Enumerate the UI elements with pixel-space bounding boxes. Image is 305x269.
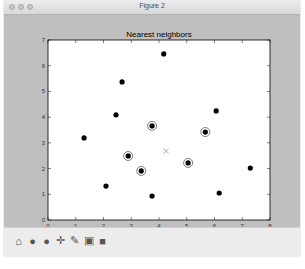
data-point	[126, 153, 131, 158]
data-point	[214, 108, 219, 113]
data-point	[103, 183, 108, 188]
figure-window: Figure 2 Nearest neighbors01234567801234…	[4, 0, 300, 256]
chart-title: Nearest neighbors	[126, 30, 191, 39]
pan-icon: ✛	[56, 234, 65, 247]
home-icon: ⌂	[15, 235, 22, 247]
subplots-button[interactable]: ▣	[82, 234, 95, 247]
data-point	[161, 51, 166, 56]
title-bar[interactable]: Figure 2	[4, 0, 300, 15]
data-point	[119, 79, 124, 84]
y-tick-label: 5	[42, 88, 46, 94]
y-tick-label: 4	[42, 114, 46, 120]
data-point	[81, 135, 86, 140]
figure-canvas[interactable]: Nearest neighbors01234567801234567	[4, 15, 300, 227]
data-point	[113, 112, 118, 117]
navigation-toolbar: ⌂●●✛✎▣■	[4, 227, 300, 256]
forward-icon: ●	[43, 235, 50, 247]
data-point	[203, 129, 208, 134]
y-tick-label: 6	[42, 63, 46, 69]
y-tick-label: 0	[42, 217, 46, 223]
data-point	[139, 168, 144, 173]
data-point	[149, 123, 154, 128]
save-button[interactable]: ■	[96, 234, 109, 247]
back-icon: ●	[29, 235, 36, 247]
zoom-button[interactable]: ✎	[68, 234, 81, 247]
y-tick-label: 1	[42, 191, 46, 197]
data-point	[186, 160, 191, 165]
data-point	[217, 190, 222, 195]
zoom-icon: ✎	[70, 234, 79, 247]
window-title: Figure 2	[4, 2, 300, 9]
pan-button[interactable]: ✛	[54, 234, 67, 247]
data-point	[149, 193, 154, 198]
save-icon: ■	[99, 235, 106, 247]
y-tick-label: 7	[42, 37, 46, 43]
y-tick-label: 2	[42, 166, 46, 172]
home-button[interactable]: ⌂	[12, 234, 25, 247]
subplots-icon: ▣	[84, 234, 94, 247]
back-button[interactable]: ●	[26, 234, 39, 247]
data-point	[248, 165, 253, 170]
y-tick-label: 3	[42, 140, 46, 146]
plot-area	[48, 40, 270, 220]
forward-button[interactable]: ●	[40, 234, 53, 247]
scatter-plot: Nearest neighbors01234567801234567	[4, 15, 300, 227]
